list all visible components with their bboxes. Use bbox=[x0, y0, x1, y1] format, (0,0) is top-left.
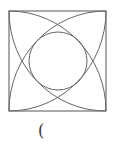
arc-from-top-right bbox=[9, 11, 106, 111]
arc-from-bottom-left bbox=[9, 11, 106, 111]
arc-from-top-left bbox=[9, 11, 106, 111]
inner-circle bbox=[29, 32, 87, 90]
arc-from-bottom-right bbox=[9, 11, 106, 111]
outer-square bbox=[9, 11, 106, 111]
geometry-figure bbox=[0, 0, 125, 150]
figure-label: ( bbox=[38, 122, 44, 140]
